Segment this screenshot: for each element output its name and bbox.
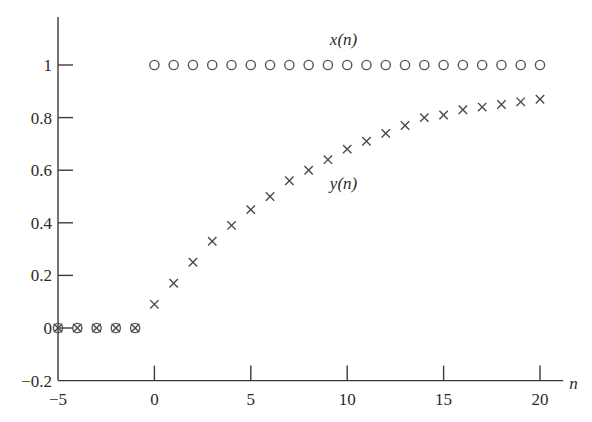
x-tick-label: 10 bbox=[339, 390, 356, 409]
circle-marker bbox=[516, 60, 525, 69]
circle-marker bbox=[150, 60, 159, 69]
cross-marker bbox=[131, 324, 139, 332]
cross-marker bbox=[208, 237, 216, 245]
series-labels: x(n)y(n) bbox=[328, 30, 358, 194]
series-yn bbox=[54, 95, 544, 332]
circle-marker bbox=[323, 60, 332, 69]
series-layer bbox=[53, 60, 544, 332]
series-label-yn: y(n) bbox=[328, 174, 358, 193]
axis-ticks: −0.200.20.40.60.81−505101520 bbox=[21, 56, 548, 409]
cross-marker bbox=[112, 324, 120, 332]
circle-marker bbox=[535, 60, 544, 69]
x-tick-label: 15 bbox=[435, 390, 452, 409]
y-tick-label: −0.2 bbox=[21, 372, 52, 391]
cross-marker bbox=[304, 166, 312, 174]
cross-marker bbox=[420, 113, 428, 121]
y-tick-label: 0.2 bbox=[31, 266, 52, 285]
circle-marker bbox=[381, 60, 390, 69]
cross-marker bbox=[478, 103, 486, 111]
circle-marker bbox=[169, 60, 178, 69]
y-tick-label: 0.8 bbox=[31, 109, 52, 128]
cross-marker bbox=[517, 98, 525, 106]
cross-marker bbox=[439, 111, 447, 119]
cross-marker bbox=[285, 177, 293, 185]
series-label-xn: x(n) bbox=[329, 30, 358, 49]
cross-marker bbox=[343, 145, 351, 153]
cross-marker bbox=[73, 324, 81, 332]
circle-marker bbox=[497, 60, 506, 69]
x-tick-label: −5 bbox=[49, 390, 67, 409]
cross-marker bbox=[227, 221, 235, 229]
x-tick-label: 0 bbox=[150, 390, 159, 409]
cross-marker bbox=[266, 192, 274, 200]
circle-marker bbox=[285, 60, 294, 69]
cross-marker bbox=[401, 121, 409, 129]
circle-marker bbox=[188, 60, 197, 69]
cross-marker bbox=[497, 100, 505, 108]
circle-marker bbox=[439, 60, 448, 69]
circle-marker bbox=[362, 60, 371, 69]
x-tick-label: 5 bbox=[247, 390, 256, 409]
circle-marker bbox=[265, 60, 274, 69]
circle-marker bbox=[246, 60, 255, 69]
cross-marker bbox=[324, 155, 332, 163]
x-tick-label: 20 bbox=[532, 390, 549, 409]
circle-marker bbox=[400, 60, 409, 69]
cross-marker bbox=[169, 279, 177, 287]
y-tick-label: 0.4 bbox=[31, 214, 53, 233]
cross-marker bbox=[189, 258, 197, 266]
cross-marker bbox=[459, 106, 467, 114]
circle-marker bbox=[304, 60, 313, 69]
cross-marker bbox=[247, 205, 255, 213]
circle-marker bbox=[420, 60, 429, 69]
cross-marker bbox=[382, 129, 390, 137]
chart: n −0.200.20.40.60.81−505101520 x(n)y(n) bbox=[0, 0, 592, 422]
series-xn bbox=[53, 60, 544, 332]
cross-marker bbox=[150, 300, 158, 308]
circle-marker bbox=[208, 60, 217, 69]
circle-marker bbox=[343, 60, 352, 69]
cross-marker bbox=[362, 137, 370, 145]
y-tick-label: 0.6 bbox=[31, 161, 52, 180]
x-axis-label: n bbox=[569, 374, 578, 393]
circle-marker bbox=[227, 60, 236, 69]
y-tick-label: 0 bbox=[44, 319, 53, 338]
cross-marker bbox=[92, 324, 100, 332]
circle-marker bbox=[458, 60, 467, 69]
axes: n bbox=[58, 17, 578, 393]
circle-marker bbox=[478, 60, 487, 69]
cross-marker bbox=[536, 95, 544, 103]
y-tick-label: 1 bbox=[44, 56, 53, 75]
